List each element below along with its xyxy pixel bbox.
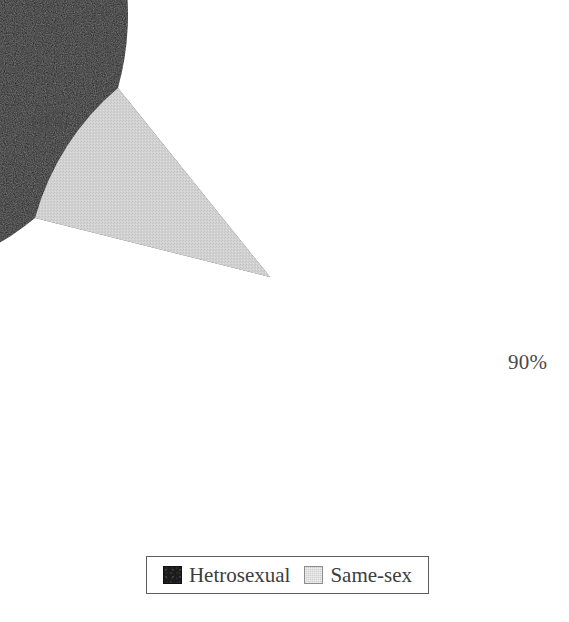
legend-label-hetrosexual: Hetrosexual — [189, 565, 290, 586]
black-swatch-icon — [163, 566, 182, 584]
legend-item-hetrosexual[interactable]: Hetrosexual — [163, 565, 290, 586]
chart-legend: Hetrosexual Same-sex — [146, 556, 429, 594]
pie-chart-graphic — [0, 0, 569, 622]
legend-label-same-sex: Same-sex — [330, 565, 412, 586]
pie-chart-figure: 10% 90% Hetrosexual Same-sex — [0, 0, 569, 622]
legend-item-same-sex[interactable]: Same-sex — [304, 565, 412, 586]
data-label-hetrosexual: 90% — [508, 352, 547, 373]
gray-swatch-icon — [304, 566, 323, 584]
data-label-same-sex: 10% — [28, 113, 67, 134]
